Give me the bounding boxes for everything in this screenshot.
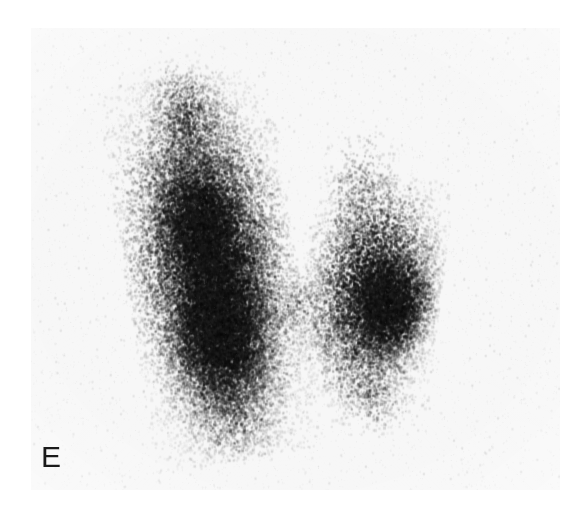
figure-root: E: [0, 0, 586, 511]
panel-label: E: [41, 441, 61, 473]
thyroid-scintigram-image: [31, 28, 560, 490]
scintigram-canvas: [31, 28, 560, 490]
